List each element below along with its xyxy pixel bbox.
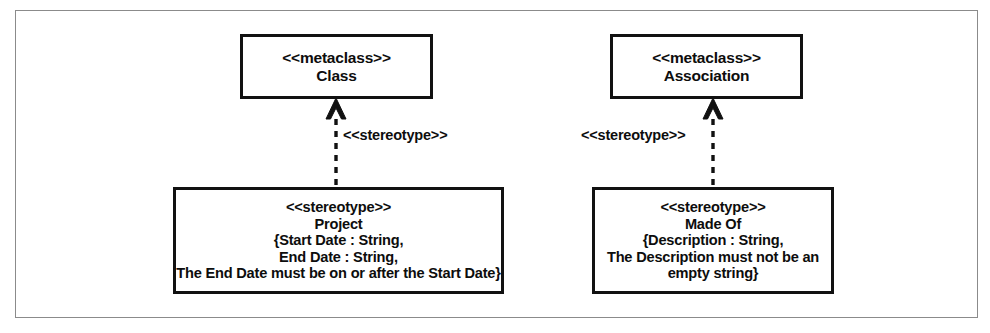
metaclass-association-box[interactable]: <<metaclass>> Association xyxy=(610,34,803,99)
metaclass-association-keyword: <<metaclass>> xyxy=(652,49,761,67)
stereotype-project-constraint-line-1: {Start Date : String, xyxy=(274,232,404,249)
stereotype-made-of-box[interactable]: <<stereotype>> Made Of {Description : St… xyxy=(592,187,834,294)
metaclass-class-name: Class xyxy=(316,67,356,85)
stereotype-project-keyword: <<stereotype>> xyxy=(286,199,391,216)
stereotype-project-constraint-line-3: The End Date must be on or after the Sta… xyxy=(176,265,501,282)
stereotype-project-box[interactable]: <<stereotype>> Project {Start Date : Str… xyxy=(173,187,504,294)
diagram-frame: <<metaclass>> Class <<metaclass>> Associ… xyxy=(15,10,978,318)
metaclass-class-keyword: <<metaclass>> xyxy=(282,49,391,67)
stereotype-project-constraint-line-2: End Date : String, xyxy=(279,249,398,266)
stereotype-made-of-name: Made Of xyxy=(685,216,741,233)
stereotype-made-of-keyword: <<stereotype>> xyxy=(660,199,765,216)
stereotype-made-of-constraint-line-3: empty string} xyxy=(668,265,759,282)
stereotype-made-of-constraint-line-2: The Description must not be an xyxy=(607,249,819,266)
edge-label-right: <<stereotype>> xyxy=(581,127,685,143)
edge-label-left: <<stereotype>> xyxy=(343,127,447,143)
hollow-triangle-arrowhead-right xyxy=(703,98,723,119)
metaclass-class-box[interactable]: <<metaclass>> Class xyxy=(240,34,433,99)
extension-connector-left[interactable] xyxy=(313,97,359,189)
diagram-canvas: <<metaclass>> Class <<metaclass>> Associ… xyxy=(0,0,990,333)
stereotype-project-name: Project xyxy=(314,216,362,233)
metaclass-association-name: Association xyxy=(664,67,750,85)
extension-connector-right[interactable] xyxy=(690,97,736,189)
stereotype-made-of-constraint-line-1: {Description : String, xyxy=(643,232,784,249)
hollow-triangle-arrowhead-left xyxy=(326,98,346,119)
